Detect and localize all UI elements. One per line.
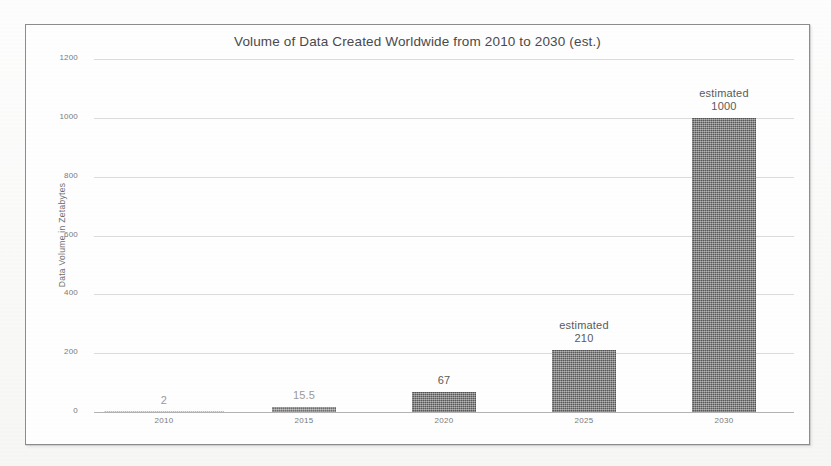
bar-slot-2015: 15.5: [234, 59, 374, 412]
bars-container: 2 15.5 67 estimated: [94, 59, 794, 412]
y-tick-label: 1000: [59, 112, 78, 121]
y-tick-label: 0: [73, 406, 78, 415]
bar-value-2015: 15.5: [293, 389, 315, 403]
bar-value-2025: 210: [559, 332, 609, 346]
bar-slot-2010: 2: [94, 59, 234, 412]
bar-slot-2025: estimated 210: [514, 59, 654, 412]
chart-frame: Volume of Data Created Worldwide from 20…: [25, 24, 810, 445]
x-axis: 2010 2015 2020 2025 2030: [94, 412, 809, 434]
bar-slot-2030: estimated 1000: [654, 59, 794, 412]
x-tick-label-2020: 2020: [374, 416, 514, 425]
bar-label-2015: 15.5: [293, 389, 315, 403]
x-tick-label-2010: 2010: [94, 416, 234, 425]
x-tick-label-2025: 2025: [514, 416, 654, 425]
bar-label-2010: 2: [161, 394, 167, 408]
bar-2030[interactable]: [692, 118, 756, 412]
bar-label-2025: estimated 210: [559, 319, 609, 347]
bar-label-2020: 67: [438, 374, 451, 388]
bar-value-2010: 2: [161, 394, 167, 408]
bar-label-2030: estimated 1000: [699, 87, 749, 115]
x-tick-label-2030: 2030: [654, 416, 794, 425]
bar-value-2020: 67: [438, 374, 451, 388]
y-tick-label: 200: [64, 347, 78, 356]
bar-annotation-2025: estimated: [559, 319, 609, 333]
x-tick-label-2015: 2015: [234, 416, 374, 425]
chart-title: Volume of Data Created Worldwide from 20…: [26, 34, 809, 49]
y-tick-label: 600: [64, 230, 78, 239]
y-tick-label: 800: [64, 171, 78, 180]
y-tick-label: 1200: [59, 53, 78, 62]
bar-value-2030: 1000: [699, 100, 749, 114]
bar-slot-2020: 67: [374, 59, 514, 412]
bar-2025[interactable]: [552, 350, 616, 412]
plot-area: 1200 1000 800 600 400 200 0: [86, 59, 794, 412]
bar-annotation-2030: estimated: [699, 87, 749, 101]
bar-2020[interactable]: [412, 392, 476, 412]
y-tick-label: 400: [64, 288, 78, 297]
